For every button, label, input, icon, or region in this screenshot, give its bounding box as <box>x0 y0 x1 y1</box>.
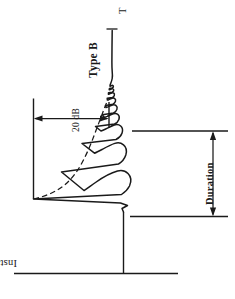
level-span-label: 20 dB <box>72 108 82 132</box>
pressure-axis-label: Instantaneous Pressure <box>0 258 17 269</box>
figure-drawing <box>0 0 235 299</box>
waveform-trace <box>34 31 131 213</box>
duration-label: Duration <box>205 163 216 205</box>
type-label: Type B <box>88 42 100 78</box>
time-axis-label: T <box>118 7 129 14</box>
figure-container: Instantaneous Pressure Type B 20 dB Dura… <box>0 0 235 299</box>
